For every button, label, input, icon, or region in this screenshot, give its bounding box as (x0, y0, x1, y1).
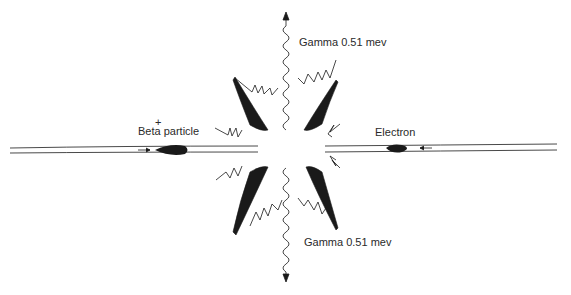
burst-upper-left (215, 77, 278, 137)
diagram-drawing (0, 0, 571, 295)
burst-lower-left (216, 166, 282, 235)
beta-particle-track (10, 146, 258, 153)
gamma-ray-top (283, 12, 289, 130)
burst-upper-right (298, 60, 340, 137)
electron-label: Electron (375, 126, 415, 138)
gamma-top-label: Gamma 0.51 mev (299, 36, 386, 48)
burst-lower-right (298, 156, 340, 230)
beta-particle-label: Beta particle (138, 125, 199, 137)
gamma-ray-bottom (283, 168, 289, 282)
annihilation-diagram: + Beta particle Electron Gamma 0.51 mev … (0, 0, 571, 295)
electron-track (325, 144, 557, 152)
gamma-bottom-label: Gamma 0.51 mev (304, 236, 391, 248)
